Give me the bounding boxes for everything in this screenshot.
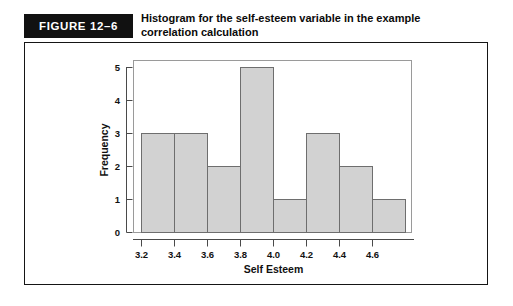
x-axis: 3.23.43.63.84.04.24.44.6 xyxy=(133,240,414,261)
histogram-bar xyxy=(307,134,340,233)
y-axis: 012345 xyxy=(115,62,133,238)
x-axis-tick-label: 4.6 xyxy=(366,249,379,260)
x-axis-title: Self Esteem xyxy=(244,263,304,275)
histogram-bar xyxy=(208,167,241,233)
histogram-bar xyxy=(142,134,175,233)
histogram-svg: 012345 3.23.43.63.84.04.24.44.6 Frequenc… xyxy=(0,0,513,306)
histogram-bar xyxy=(340,167,373,233)
x-axis-tick-label: 3.4 xyxy=(168,249,182,260)
histogram-bar xyxy=(373,200,406,233)
y-axis-tick-label: 1 xyxy=(115,194,121,205)
x-axis-tick-label: 4.0 xyxy=(267,249,280,260)
y-axis-tick-label: 5 xyxy=(115,62,121,73)
x-axis-tick-label: 4.2 xyxy=(300,249,313,260)
bars-group xyxy=(142,68,406,233)
histogram-bar xyxy=(241,68,274,233)
histogram-bar xyxy=(274,200,307,233)
x-axis-tick-label: 3.8 xyxy=(234,249,247,260)
histogram-chart: 012345 3.23.43.63.84.04.24.44.6 Frequenc… xyxy=(0,0,513,306)
y-axis-tick-label: 2 xyxy=(115,161,120,172)
histogram-bar xyxy=(175,134,208,233)
y-axis-tick-label: 3 xyxy=(115,128,120,139)
y-axis-tick-label: 0 xyxy=(115,227,120,238)
x-axis-tick-label: 4.4 xyxy=(333,249,347,260)
y-axis-tick-label: 4 xyxy=(115,95,121,106)
y-axis-title: Frequency xyxy=(98,123,110,176)
x-axis-tick-label: 3.2 xyxy=(135,249,148,260)
x-axis-tick-label: 3.6 xyxy=(201,249,214,260)
